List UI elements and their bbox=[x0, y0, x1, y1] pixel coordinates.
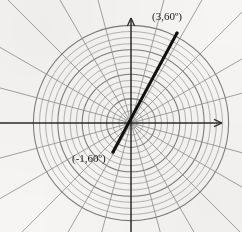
point-label-negative: (-1,60º) bbox=[72, 152, 106, 164]
point-label-positive: (3,60º) bbox=[152, 10, 182, 22]
polar-grid-svg bbox=[0, 0, 242, 232]
polar-graph-figure: (3,60º) (-1,60º) bbox=[0, 0, 242, 232]
